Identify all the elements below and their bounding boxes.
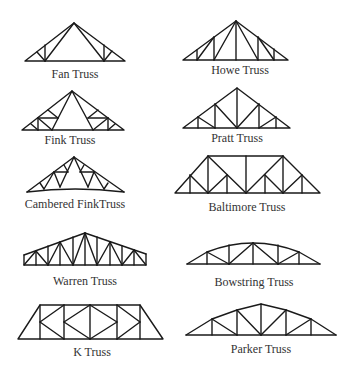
bowstring-truss-label: Bowstring Truss xyxy=(214,275,293,290)
warren-truss-drawing xyxy=(24,233,146,265)
cambered-fink-truss-drawing xyxy=(27,157,124,192)
parker-truss-drawing xyxy=(186,304,336,335)
howe-truss-label: Howe Truss xyxy=(211,63,269,78)
fan-truss-label: Fan Truss xyxy=(51,67,98,82)
howe-truss-drawing xyxy=(183,21,288,60)
parker-truss-label: Parker Truss xyxy=(231,342,291,357)
bowstring-truss-drawing xyxy=(187,243,320,264)
baltimore-truss-drawing xyxy=(175,156,320,193)
fink-truss-drawing xyxy=(22,91,124,130)
pratt-truss-label: Pratt Truss xyxy=(211,131,263,146)
pratt-truss-drawing xyxy=(183,88,290,128)
baltimore-truss-label: Baltimore Truss xyxy=(208,200,285,215)
warren-truss-label: Warren Truss xyxy=(53,274,117,289)
truss-diagrams xyxy=(0,0,351,368)
fink-truss-label: Fink Truss xyxy=(44,133,95,148)
k-truss-label: K Truss xyxy=(73,345,111,360)
cambered-fink-truss-label: Cambered FinkTruss xyxy=(25,197,126,212)
k-truss-drawing xyxy=(18,305,163,339)
fan-truss-drawing xyxy=(25,23,125,61)
